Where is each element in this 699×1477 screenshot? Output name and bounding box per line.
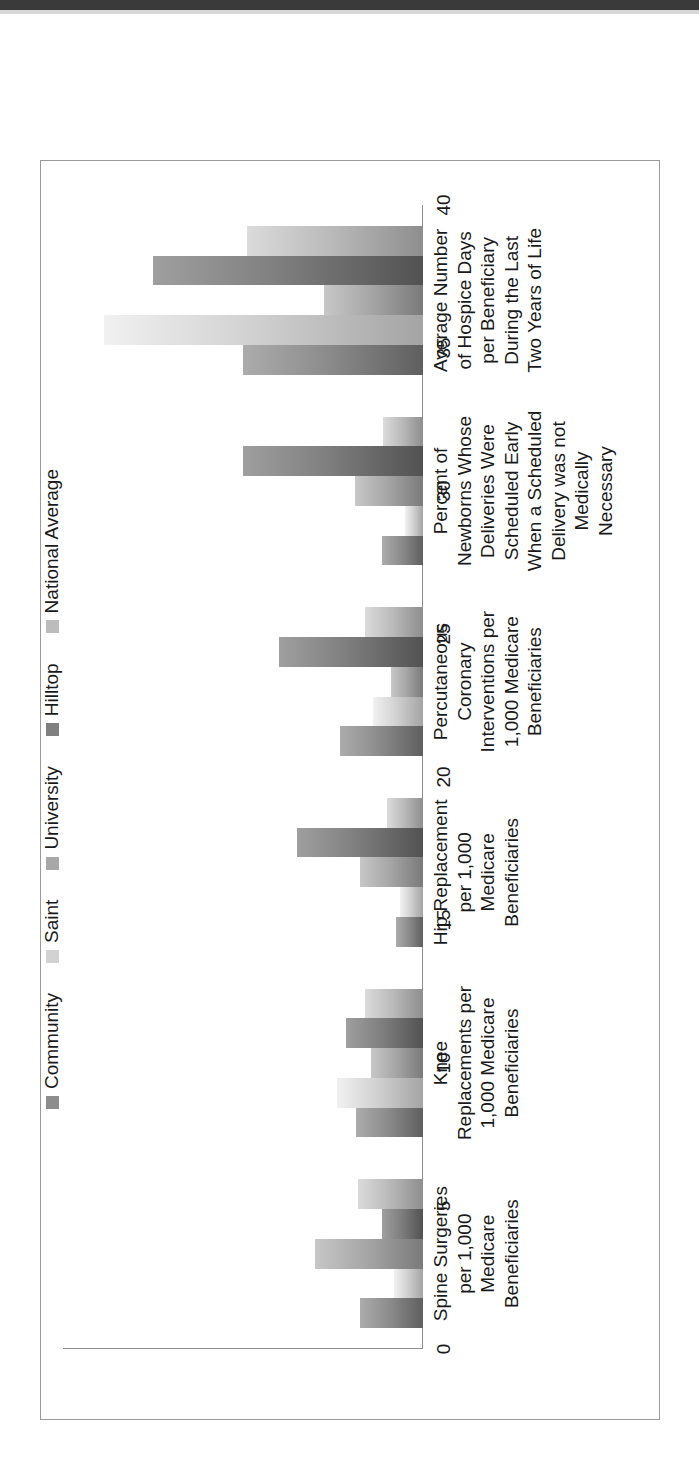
bar-university: [370, 1048, 422, 1078]
category-label-line: Beneficiaries: [523, 592, 547, 771]
bar-community: [356, 1108, 423, 1138]
bar-university: [354, 476, 422, 506]
bar-fill: [315, 1239, 423, 1269]
rotated-chart-stage: CommunitySaintUniversityHilltopNational …: [40, 160, 660, 1420]
legend-item-saint: Saint: [41, 900, 63, 963]
bar-national-average: [358, 1179, 423, 1209]
legend-item-label: National Average: [41, 469, 63, 613]
bar-hilltop: [279, 637, 423, 667]
category-label-line: 1,000 Medicare: [476, 973, 500, 1152]
category-label-line: Newborns Whose: [452, 401, 476, 580]
bar-university: [315, 1239, 423, 1269]
x-axis-category-labels: Spine Surgeriesper 1,000MedicareBenefici…: [429, 205, 579, 1349]
bar-fill: [243, 345, 423, 375]
plot-area: [63, 205, 423, 1349]
bar-fill: [381, 536, 422, 566]
bar-fill: [358, 1179, 423, 1209]
bar-fill: [370, 1048, 422, 1078]
bar-university: [324, 285, 423, 315]
scan-artifact-top-bar: [0, 0, 699, 10]
category-label-line: Percutaneous: [429, 592, 453, 771]
legend-item-label: Hilltop: [41, 663, 63, 716]
category-label-line: Beneficiaries: [499, 783, 523, 962]
bar-fill: [365, 607, 423, 637]
bar-fill: [279, 637, 423, 667]
bar-hilltop: [297, 828, 423, 858]
category-label-line: of Hospice Days: [452, 211, 476, 390]
bar-fill: [383, 417, 423, 447]
category-label-line: Replacements per: [452, 973, 476, 1152]
legend-item-university: University: [41, 766, 63, 869]
bar-national-average: [246, 226, 422, 256]
category-label-line: per 1,000: [452, 1164, 476, 1343]
bar-saint: [394, 1269, 423, 1299]
legend-item-community: Community: [41, 993, 63, 1109]
category-label-line: Spine Surgeries: [429, 1164, 453, 1343]
category-label-line: Delivery was not: [546, 401, 570, 580]
category-label-line: Medicare: [476, 783, 500, 962]
bar-hilltop: [153, 256, 423, 286]
chart-frame: CommunitySaintUniversityHilltopNational …: [40, 160, 660, 1420]
category-label-line: When a Scheduled: [523, 401, 547, 580]
category-label-line: 1,000 Medicare: [499, 592, 523, 771]
bar-fill: [243, 446, 423, 476]
bar-fill: [246, 226, 422, 256]
bar-hilltop: [345, 1018, 422, 1048]
category-label: PercutaneousCoronaryInterventions per1,0…: [429, 592, 547, 771]
chart-legend: CommunitySaintUniversityHilltopNational …: [41, 159, 63, 1419]
scan-artifact-top-bar-shadow: [0, 10, 699, 14]
bar-group: [63, 989, 423, 1138]
category-label-line: Medicare: [476, 1164, 500, 1343]
bar-national-average: [365, 989, 423, 1019]
legend-item-label: Community: [41, 993, 63, 1089]
category-label-line: Percent of: [429, 401, 453, 580]
bar-fill: [340, 726, 423, 756]
bar-fill: [387, 798, 423, 828]
y-axis-line: [63, 1348, 423, 1349]
category-label-line: Average Number: [429, 211, 453, 390]
category-label-line: Hip Replacement: [429, 783, 453, 962]
category-label: Percent ofNewborns WhoseDeliveries WereS…: [429, 401, 617, 580]
bar-community: [381, 536, 422, 566]
legend-swatch-icon: [45, 950, 58, 963]
bar-fill: [381, 1209, 422, 1239]
category-label-line: Deliveries Were: [476, 401, 500, 580]
bar-community: [360, 1298, 423, 1328]
bar-fill: [354, 476, 422, 506]
bar-fill: [360, 1298, 423, 1328]
bar-fill: [153, 256, 423, 286]
category-label-line: Beneficiaries: [499, 1164, 523, 1343]
bar-university: [360, 857, 423, 887]
category-label-line: Coronary: [452, 592, 476, 771]
bar-group: [63, 417, 423, 566]
legend-item-national-average: National Average: [41, 469, 63, 633]
x-axis-baseline: [422, 205, 423, 1349]
legend-swatch-icon: [45, 857, 58, 870]
legend-item-label: University: [41, 766, 63, 849]
bar-saint: [405, 506, 423, 536]
legend-swatch-icon: [45, 723, 58, 736]
bar-fill: [336, 1078, 422, 1108]
bar-national-average: [365, 607, 423, 637]
bar-fill: [360, 857, 423, 887]
legend-swatch-icon: [45, 1096, 58, 1109]
bar-saint: [372, 697, 422, 727]
bar-community: [396, 917, 423, 947]
category-label-line: Two Years of Life: [523, 211, 547, 390]
bar-fill: [405, 506, 423, 536]
bar-national-average: [387, 798, 423, 828]
bar-community: [340, 726, 423, 756]
category-label-line: Scheduled Early: [499, 401, 523, 580]
bar-fill: [297, 828, 423, 858]
category-label-line: Interventions per: [476, 592, 500, 771]
bar-fill: [372, 697, 422, 727]
bar-fill: [390, 667, 422, 697]
bar-saint: [336, 1078, 422, 1108]
category-label: Spine Surgeriesper 1,000MedicareBenefici…: [429, 1164, 523, 1343]
bar-fill: [345, 1018, 422, 1048]
bar-group: [63, 798, 423, 947]
legend-swatch-icon: [45, 620, 58, 633]
bar-community: [243, 345, 423, 375]
bar-university: [390, 667, 422, 697]
bar-national-average: [383, 417, 423, 447]
